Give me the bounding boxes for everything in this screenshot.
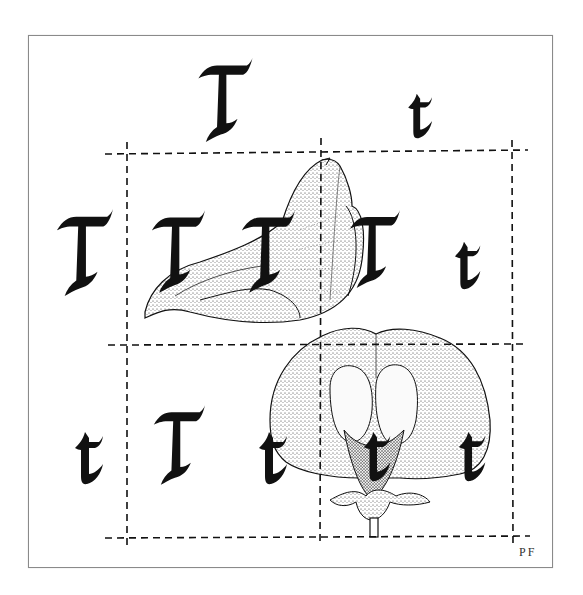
grid-line-bottom xyxy=(105,536,530,538)
artist-signature: PF xyxy=(519,545,536,560)
allele-recessive-parent-left xyxy=(75,432,103,484)
allele-recessive-cell-Tt-top-right xyxy=(455,242,480,289)
grid-line-right xyxy=(512,140,513,548)
grid-line-middle xyxy=(108,344,528,345)
allele-dominant-parent-top xyxy=(198,58,252,142)
pea-flower-front-view xyxy=(270,328,490,537)
allele-dominant-cell-Tt-bottom-left xyxy=(154,405,205,485)
allele-recessive-parent-top xyxy=(408,94,432,139)
allele-dominant-parent-left xyxy=(57,209,113,296)
punnett-illustration xyxy=(0,0,583,595)
grid-line-top xyxy=(105,150,528,154)
